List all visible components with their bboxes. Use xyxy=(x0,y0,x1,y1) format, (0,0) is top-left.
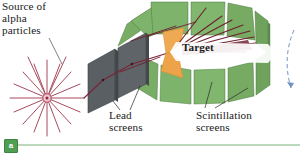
alpha-source-dot xyxy=(46,97,49,100)
scintillation-panel xyxy=(191,2,225,35)
label-lead-screens: Lead screens xyxy=(109,110,143,134)
scintillation-panel xyxy=(227,3,255,40)
scintillation-panel xyxy=(228,62,254,102)
source-label-leader xyxy=(49,38,62,64)
scintillation-panel xyxy=(194,69,225,104)
label-scintillation-screens: Scintillation screens xyxy=(196,110,252,134)
label-source-of-alpha-particles: Source of alpha particles xyxy=(2,1,46,36)
dashed-arc-fragment xyxy=(287,30,294,88)
lead-screen-front-edge xyxy=(115,49,118,102)
lead-slit-back xyxy=(131,63,134,66)
label-target: Target xyxy=(182,42,214,54)
panel-badge: a xyxy=(4,139,18,153)
lead-slit-front xyxy=(102,79,105,82)
panel-divider-rule xyxy=(18,144,300,146)
